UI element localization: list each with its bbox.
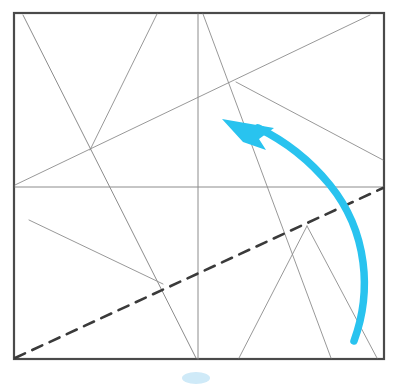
diagram-background [0, 0, 402, 384]
page-smudge [182, 372, 210, 384]
origami-diagram [0, 0, 402, 384]
crease-pattern-canvas [0, 0, 402, 384]
